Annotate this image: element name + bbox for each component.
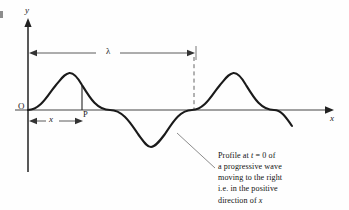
caption-line-1-post: = 0 of xyxy=(253,151,275,160)
distance-label: x xyxy=(49,115,53,124)
wavelength-dimension-arrow xyxy=(29,46,196,60)
caption-leader-line xyxy=(177,133,215,168)
caption-line-1-pre: Profile at xyxy=(218,151,251,160)
wavelength-label: λ xyxy=(106,47,110,56)
caption-line-5: direction of x xyxy=(218,195,343,206)
x-axis-label: x xyxy=(330,114,334,123)
caption-line-1: Profile at t = 0 of xyxy=(218,150,343,161)
caption-line-3: moving to the right xyxy=(218,172,343,183)
point-p-label: P xyxy=(83,110,88,119)
caption-line-4: i.e. in the positive xyxy=(218,183,343,194)
figure-caption: Profile at t = 0 of a progressive wave m… xyxy=(218,150,343,206)
distance-dimension-arrow xyxy=(29,114,83,128)
wave-profile-figure: y x O λ x P Profile at t = 0 of a progre… xyxy=(0,0,349,210)
caption-line-2: a progressive wave xyxy=(218,161,343,172)
origin-label: O xyxy=(18,102,25,111)
y-axis xyxy=(24,18,31,172)
caption-var-x: x xyxy=(259,196,263,205)
caption-line-5-pre: direction of xyxy=(218,196,259,205)
y-axis-label: y xyxy=(25,6,29,15)
x-axis xyxy=(15,106,334,114)
